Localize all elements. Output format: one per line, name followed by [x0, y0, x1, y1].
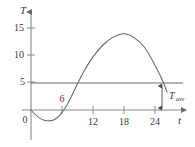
t-ave-label: T [169, 90, 176, 101]
temperature-curve [31, 34, 167, 121]
temperature-sinusoid-chart: T t 15 10 5 0 6 12 18 24 T ave [0, 0, 195, 147]
y-axis-label: T [20, 4, 27, 16]
t-ave-subscript: ave [176, 96, 185, 102]
y-tick-label-10: 10 [14, 49, 24, 60]
chart-figure: T t 15 10 5 0 6 12 18 24 T ave [0, 0, 195, 147]
x-tick-label-18: 18 [119, 116, 129, 127]
x-tick-label-24: 24 [150, 116, 160, 127]
x-tick-label-0: 0 [23, 114, 28, 125]
x-tick-label-6: 6 [60, 93, 65, 104]
x-tick-label-12: 12 [88, 116, 98, 127]
y-tick-label-15: 15 [14, 22, 24, 33]
x-axis-label: t [178, 114, 182, 126]
y-tick-label-5: 5 [20, 76, 25, 87]
